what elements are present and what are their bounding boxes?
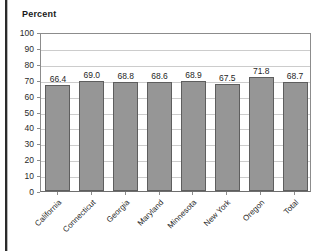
- bar-column[interactable]: 68.9: [181, 32, 206, 191]
- bar-value-label: 71.8: [253, 66, 270, 76]
- bar-column[interactable]: 66.4: [45, 32, 70, 191]
- x-axis-tick-mark: [260, 192, 261, 195]
- x-axis-tick-mark: [159, 192, 160, 195]
- bar-value-label: 68.8: [117, 71, 134, 81]
- y-axis-tick-mark: [37, 160, 40, 161]
- y-axis-tick-mark: [37, 81, 40, 82]
- bar-column[interactable]: 71.8: [249, 32, 274, 191]
- bar[interactable]: [147, 82, 172, 191]
- bar[interactable]: [215, 84, 240, 191]
- y-axis-tick-mark: [37, 49, 40, 50]
- bar-value-label: 67.5: [219, 73, 236, 83]
- x-axis-tick-mark: [125, 192, 126, 195]
- bar-column[interactable]: 68.8: [113, 32, 138, 191]
- y-axis-tick-label: 60: [0, 92, 34, 102]
- bar-value-label: 68.7: [287, 71, 304, 81]
- bar-value-label: 68.6: [151, 71, 168, 81]
- bar[interactable]: [181, 81, 206, 191]
- x-axis-tick-mark: [192, 192, 193, 195]
- bar-column[interactable]: 68.7: [283, 32, 308, 191]
- y-axis-tick-label: 80: [0, 60, 34, 70]
- bar[interactable]: [45, 85, 70, 191]
- y-axis-tick-label: 0: [0, 187, 34, 197]
- y-axis-tick-mark: [37, 33, 40, 34]
- y-axis-tick-label: 100: [0, 28, 34, 38]
- y-axis-tick-mark: [37, 176, 40, 177]
- x-axis-tick-mark: [57, 192, 58, 195]
- bar[interactable]: [283, 82, 308, 191]
- bar-column[interactable]: 69.0: [79, 32, 104, 191]
- plot-area: 66.469.068.868.668.967.571.868.7: [40, 33, 311, 192]
- bar[interactable]: [249, 77, 274, 191]
- y-axis-tick-mark: [37, 144, 40, 145]
- bar[interactable]: [79, 81, 104, 191]
- y-axis-tick-label: 90: [0, 44, 34, 54]
- y-axis-tick-mark: [37, 192, 40, 193]
- bar[interactable]: [113, 82, 138, 191]
- bar-value-label: 69.0: [84, 70, 101, 80]
- y-axis-tick-mark: [37, 113, 40, 114]
- y-axis-tick-label: 50: [0, 108, 34, 118]
- y-axis-tick-mark: [37, 97, 40, 98]
- y-axis-tick-mark: [37, 65, 40, 66]
- y-axis-tick-label: 70: [0, 76, 34, 86]
- bar-column[interactable]: 67.5: [215, 32, 240, 191]
- x-axis-tick-mark: [91, 192, 92, 195]
- bar-column[interactable]: 68.6: [147, 32, 172, 191]
- y-axis-tick-label: 20: [0, 155, 34, 165]
- bar-value-label: 66.4: [50, 74, 67, 84]
- x-axis-tick-mark: [294, 192, 295, 195]
- y-axis-tick-label: 10: [0, 171, 34, 181]
- y-axis-tick-mark: [37, 128, 40, 129]
- chart-figure: Percent 66.469.068.868.668.967.571.868.7…: [0, 0, 329, 251]
- bar-series: 66.469.068.868.668.967.571.868.7: [41, 34, 310, 191]
- y-axis-tick-label: 30: [0, 139, 34, 149]
- x-axis-tick-mark: [226, 192, 227, 195]
- bar-value-label: 68.9: [185, 70, 202, 80]
- y-axis-title: Percent: [22, 9, 56, 19]
- y-axis-tick-label: 40: [0, 123, 34, 133]
